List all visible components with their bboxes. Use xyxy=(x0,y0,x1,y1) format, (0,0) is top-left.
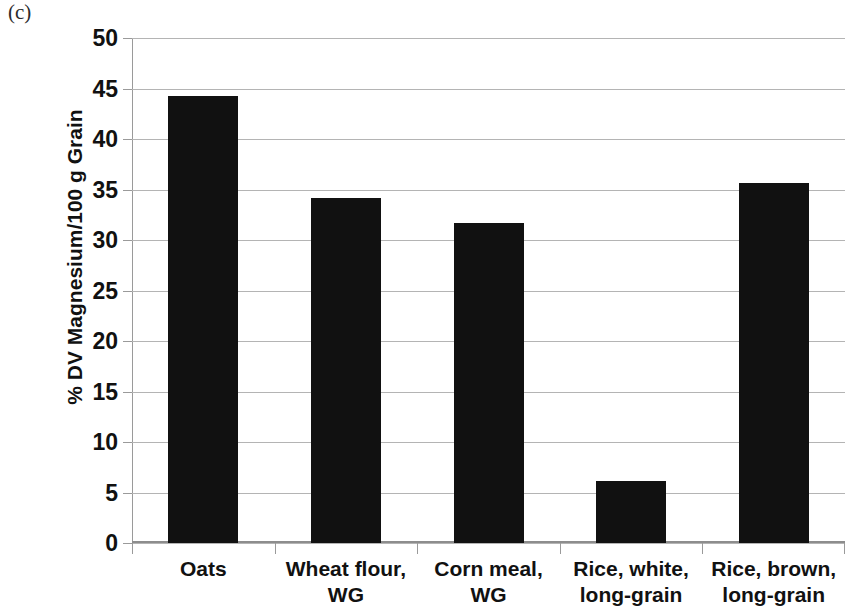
y-axis-title: % DV Magnesium/100 g Grain xyxy=(63,7,87,507)
y-tick-mark xyxy=(123,240,132,241)
bar xyxy=(739,183,809,543)
category-divider xyxy=(844,543,845,554)
x-tick-label: Oats xyxy=(132,556,275,582)
y-tick-label: 5 xyxy=(105,479,118,506)
bar xyxy=(454,223,524,543)
gridline xyxy=(132,139,845,140)
x-tick-label: Corn meal,WG xyxy=(417,556,560,607)
y-tick-mark xyxy=(123,139,132,140)
y-tick-mark xyxy=(123,89,132,90)
bar xyxy=(311,198,381,543)
x-tick-label-line: Rice, brown, xyxy=(702,556,845,582)
x-tick-label: Wheat flour,WG xyxy=(275,556,418,607)
y-tick-label: 50 xyxy=(92,25,118,52)
category-divider xyxy=(132,543,133,554)
x-tick-label-line: Wheat flour, xyxy=(275,556,418,582)
panel-label: (c) xyxy=(8,2,31,23)
y-tick-mark xyxy=(123,442,132,443)
bar xyxy=(596,481,666,543)
gridline xyxy=(132,89,845,90)
x-tick-label-line: WG xyxy=(275,582,418,608)
y-tick-mark xyxy=(123,493,132,494)
x-tick-label-line: long-grain xyxy=(560,582,703,608)
y-tick-label: 15 xyxy=(92,378,118,405)
y-tick-mark xyxy=(123,341,132,342)
category-divider xyxy=(275,543,276,554)
y-tick-label: 20 xyxy=(92,328,118,355)
gridline xyxy=(132,38,845,39)
plot-area: 05101520253035404550 xyxy=(132,38,845,543)
category-divider xyxy=(417,543,418,554)
y-tick-mark xyxy=(123,291,132,292)
x-tick-label: Rice, brown,long-grain xyxy=(702,556,845,607)
y-tick-mark xyxy=(123,392,132,393)
y-tick-mark xyxy=(123,543,132,544)
y-tick-label: 45 xyxy=(92,75,118,102)
figure-panel-c: (c) % DV Magnesium/100 g Grain 051015202… xyxy=(0,0,864,612)
x-tick-label-line: long-grain xyxy=(702,582,845,608)
category-divider xyxy=(702,543,703,554)
x-tick-label-line: Oats xyxy=(132,556,275,582)
y-tick-label: 35 xyxy=(92,176,118,203)
y-tick-mark xyxy=(123,38,132,39)
y-tick-label: 40 xyxy=(92,126,118,153)
x-tick-label-line: Corn meal, xyxy=(417,556,560,582)
y-tick-label: 30 xyxy=(92,227,118,254)
category-divider xyxy=(560,543,561,554)
y-tick-label: 0 xyxy=(105,530,118,557)
bar xyxy=(168,96,238,543)
x-tick-label-line: Rice, white, xyxy=(560,556,703,582)
gridline xyxy=(132,543,845,544)
x-tick-label-line: WG xyxy=(417,582,560,608)
x-axis-labels: OatsWheat flour,WGCorn meal,WGRice, whit… xyxy=(132,556,845,612)
y-tick-mark xyxy=(123,190,132,191)
y-tick-label: 10 xyxy=(92,429,118,456)
y-tick-label: 25 xyxy=(92,277,118,304)
x-tick-label: Rice, white,long-grain xyxy=(560,556,703,607)
